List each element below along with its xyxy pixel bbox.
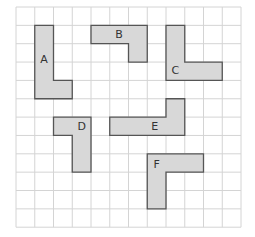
shape-label: E xyxy=(151,120,158,133)
shape-c: C xyxy=(166,25,222,80)
grid-diagram: ABCDEF xyxy=(0,0,255,237)
shape-label: F xyxy=(153,158,159,171)
shape-label: C xyxy=(172,64,180,77)
shape-d: D xyxy=(54,117,92,172)
shape-label: D xyxy=(77,120,85,133)
shape-label: B xyxy=(115,28,123,41)
shape-b: B xyxy=(91,25,147,62)
shape-f: F xyxy=(147,154,203,209)
shape-label: A xyxy=(40,53,48,66)
